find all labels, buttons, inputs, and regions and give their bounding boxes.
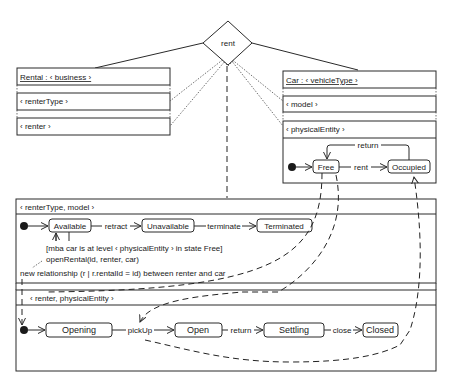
rental-object[interactable]: Rental : ‹ business › ‹ renterType › ‹ r… — [17, 68, 170, 135]
state-opening-label: Opening — [62, 325, 96, 335]
relationship-diamond[interactable]: rent — [203, 21, 252, 65]
state-terminated-label: Terminated — [264, 222, 304, 231]
link-car — [252, 43, 358, 70]
car-title: Car : ‹ vehicleType › — [286, 76, 358, 85]
link-rental — [95, 43, 203, 68]
transition-return-car: return — [358, 141, 379, 150]
level2-header: ‹ renter, physicalEntity › — [30, 294, 114, 303]
car-level-model: ‹ model › — [286, 100, 318, 109]
state-closed-label: Closed — [366, 325, 394, 335]
initial-state — [20, 222, 28, 230]
dotted-link — [170, 60, 226, 126]
rental-diagram: rent Rental : ‹ business › ‹ renterType … — [0, 0, 451, 385]
transition-pickup: pickUp — [128, 326, 153, 335]
rental-life-cycle: ‹ renterType, model › Available retract … — [16, 199, 436, 371]
transition-retract: retract — [105, 222, 128, 231]
state-unavailable-label: Unavailable — [147, 222, 189, 231]
rental-level-renterType: ‹ renterType › — [20, 97, 68, 106]
level1-header: ‹ renterType, model › — [20, 203, 95, 212]
state-open-label: Open — [187, 325, 209, 335]
relationship-label: rent — [221, 39, 236, 48]
initial-state — [288, 163, 296, 171]
dotted-link — [231, 60, 283, 126]
transition-rent: rent — [354, 163, 369, 172]
rental-level-renter: ‹ renter › — [20, 122, 51, 131]
action-text: openRental(id, renter, car) — [46, 255, 139, 264]
state-free-label: Free — [318, 163, 335, 172]
dotted-link — [170, 58, 225, 101]
transition-close: close — [333, 326, 352, 335]
car-level-physicalEntity: ‹ physicalEntity › — [286, 125, 345, 134]
guard-text: [mba car is at level ‹ physicalEntity › … — [46, 244, 223, 253]
state-available-label: Available — [54, 222, 87, 231]
rental-title: Rental : ‹ business › — [20, 73, 91, 82]
state-occupied-label: Occupied — [392, 163, 426, 172]
state-settling-label: Settling — [279, 325, 309, 335]
effect-text: new relationship (r | r.rentalId = id) b… — [20, 269, 226, 278]
dotted-link — [230, 58, 283, 101]
transition-terminate: terminate — [207, 222, 241, 231]
car-object[interactable]: Car : ‹ vehicleType › ‹ model › ‹ physic… — [283, 71, 436, 183]
transition-return: return — [231, 326, 252, 335]
initial-state — [20, 326, 28, 334]
